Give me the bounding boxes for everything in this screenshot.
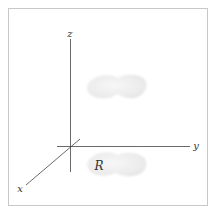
figure-frame bbox=[9, 9, 208, 206]
z-axis-label: z bbox=[66, 28, 73, 39]
x-axis-label: x bbox=[17, 183, 23, 194]
y-axis-label: y bbox=[192, 140, 199, 151]
diagram-canvas: z y x R bbox=[0, 0, 214, 213]
region-r-label: R bbox=[93, 159, 103, 173]
